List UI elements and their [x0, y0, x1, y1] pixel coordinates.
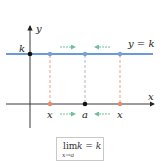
point-a	[83, 102, 88, 107]
x-label-right: x	[117, 109, 123, 120]
k-label: k	[19, 43, 25, 54]
x-axis-label: x	[148, 91, 154, 102]
point-blue-right	[118, 52, 122, 56]
lim-subscript: x→a	[62, 151, 74, 158]
limit-formula-box: lim x→a k = k	[56, 137, 104, 161]
point-blue-center	[83, 52, 87, 56]
point-orange-right	[118, 102, 122, 106]
x-label-left: x	[47, 109, 53, 120]
line-label: y = k	[127, 38, 154, 49]
lim-text: lim	[63, 141, 77, 151]
lim-expression: k = k	[77, 141, 101, 151]
point-k-on-y-axis	[28, 52, 33, 57]
point-blue-left	[48, 52, 52, 56]
a-label: a	[82, 109, 88, 120]
point-orange-left	[48, 102, 52, 106]
y-axis-label: y	[35, 23, 42, 34]
